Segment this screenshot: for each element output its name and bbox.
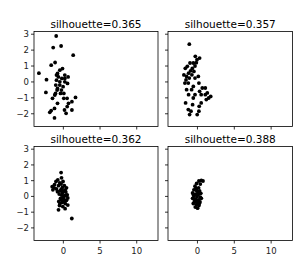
data-point xyxy=(49,63,53,67)
data-point xyxy=(37,71,41,75)
data-point xyxy=(55,78,59,82)
data-point xyxy=(63,207,67,211)
subplot-title: silhouette=0.357 xyxy=(185,18,276,30)
data-point xyxy=(186,81,190,85)
data-point xyxy=(190,88,194,92)
x-tick-label: 0 xyxy=(195,246,200,256)
data-point xyxy=(60,88,64,92)
data-point xyxy=(58,80,62,84)
data-point xyxy=(67,101,71,105)
data-point xyxy=(196,206,200,210)
data-point xyxy=(197,104,201,108)
data-point xyxy=(63,80,67,84)
data-point xyxy=(188,61,192,65)
data-point xyxy=(56,190,60,194)
data-point xyxy=(61,85,65,89)
data-point xyxy=(203,86,207,90)
data-point xyxy=(185,75,189,79)
y-tick-label: 3 xyxy=(24,144,29,154)
data-point xyxy=(193,93,197,97)
data-point xyxy=(63,108,67,112)
data-point xyxy=(59,171,63,175)
data-point xyxy=(65,105,69,109)
data-point xyxy=(197,109,201,113)
data-point xyxy=(203,93,207,97)
data-point xyxy=(54,34,58,38)
data-point xyxy=(199,196,203,200)
data-point xyxy=(183,66,187,70)
data-point xyxy=(191,96,195,100)
data-point xyxy=(187,71,191,75)
y-tick-label: 1 xyxy=(24,61,29,71)
data-point xyxy=(199,101,203,105)
data-point xyxy=(62,92,66,96)
data-point xyxy=(57,208,61,212)
data-point xyxy=(194,187,198,191)
x-tick-label: 5 xyxy=(232,246,237,256)
data-point xyxy=(65,96,69,100)
data-point xyxy=(44,91,48,95)
data-point xyxy=(195,113,199,117)
data-point xyxy=(70,108,74,112)
data-point xyxy=(51,188,55,192)
data-point xyxy=(64,111,68,115)
data-point xyxy=(184,101,188,105)
data-point xyxy=(192,70,196,74)
data-point xyxy=(192,193,196,197)
panel-bottom-left: silhouette=0.3623210−1−20510 xyxy=(16,133,158,256)
panel-bottom-right: silhouette=0.3880510 xyxy=(165,133,293,256)
data-point xyxy=(59,92,63,96)
data-point xyxy=(70,100,74,104)
y-tick-label: 1 xyxy=(24,176,29,186)
data-point xyxy=(61,180,65,184)
data-point xyxy=(198,56,202,60)
data-point xyxy=(55,88,59,92)
data-point xyxy=(51,46,55,50)
data-point xyxy=(188,113,192,117)
data-point xyxy=(59,44,63,48)
figure: silhouette=0.3653210−1−2 silhouette=0.35… xyxy=(0,0,302,266)
x-tick-label: 10 xyxy=(131,246,142,256)
data-point xyxy=(58,83,62,87)
data-point xyxy=(60,176,64,180)
data-point xyxy=(58,68,62,72)
subplot-title: silhouette=0.362 xyxy=(50,133,141,145)
data-point xyxy=(63,73,67,77)
data-point xyxy=(74,96,78,100)
data-point xyxy=(62,96,66,100)
data-point xyxy=(191,85,195,89)
y-tick-label: 3 xyxy=(24,29,29,39)
y-tick-label: −2 xyxy=(16,109,29,119)
data-point xyxy=(63,77,67,81)
data-point xyxy=(196,75,200,79)
axes-frame xyxy=(34,147,158,241)
y-tick-label: 2 xyxy=(24,160,29,170)
data-point xyxy=(189,109,193,113)
data-point xyxy=(53,107,57,111)
data-point xyxy=(56,101,60,105)
data-point xyxy=(63,188,67,192)
subplot-title: silhouette=0.388 xyxy=(185,133,276,145)
data-point xyxy=(55,73,59,77)
data-point xyxy=(54,83,58,87)
x-tick-label: 10 xyxy=(266,246,277,256)
data-point xyxy=(70,217,74,221)
data-point xyxy=(66,75,70,79)
data-point xyxy=(198,182,202,186)
data-point xyxy=(199,93,203,97)
y-tick-label: −2 xyxy=(16,223,29,233)
data-point xyxy=(66,196,70,200)
x-tick-label: 5 xyxy=(97,246,102,256)
data-point xyxy=(53,61,57,65)
data-point xyxy=(187,93,191,97)
data-point xyxy=(48,110,52,114)
data-point xyxy=(193,54,197,58)
data-point xyxy=(45,78,49,82)
data-point xyxy=(66,203,70,207)
panel-top-right: silhouette=0.357 xyxy=(165,18,293,130)
data-point xyxy=(60,198,64,202)
data-point xyxy=(53,93,57,97)
data-point xyxy=(207,96,211,100)
data-point xyxy=(185,88,189,92)
y-tick-label: 0 xyxy=(24,77,29,87)
